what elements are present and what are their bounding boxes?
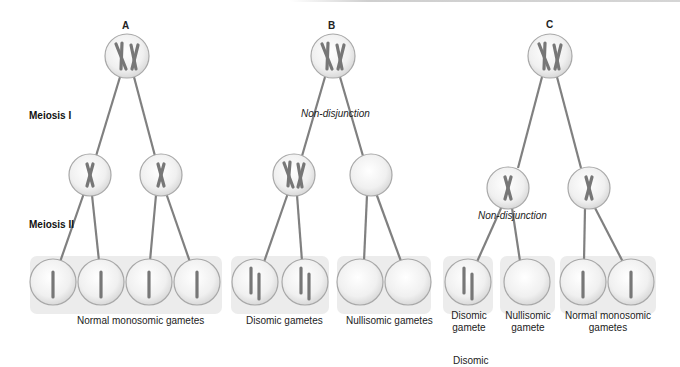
gamete-b-nullisomic-2 [385, 259, 431, 305]
caption-b-nullisomic: Nullisomic gametes [346, 315, 433, 326]
line-c-6 [594, 206, 624, 264]
gamete-c-disomic [445, 259, 491, 305]
gamete-b-disomic-1 [232, 259, 278, 305]
cell-b-m1-left [273, 154, 315, 196]
cell-b-m1-right [350, 154, 392, 196]
stage-label-meiosis-1: Meiosis I [29, 110, 71, 121]
line-c-5 [584, 208, 585, 261]
panel-label-b: B [328, 20, 335, 31]
gamete-b-nullisomic-1 [337, 259, 383, 305]
line-a-5 [150, 195, 156, 261]
line-b-4 [297, 195, 302, 261]
line-a-1 [96, 77, 120, 156]
caption-c-disomic: Disomic gamete [444, 310, 494, 334]
footer-label-disomic: Disomic [453, 355, 489, 366]
line-c-1 [518, 77, 542, 168]
caption-c-normal-monosomic: Normal monosomic gametes [558, 310, 658, 334]
caption-a-normal-monosomic: Normal monosomic gametes [77, 315, 204, 326]
line-b-5 [364, 195, 367, 261]
cell-c-parent [528, 34, 572, 78]
line-a-2 [134, 77, 155, 156]
annotation-non-disjunction-b: Non-disjunction [301, 108, 370, 119]
line-b-6 [376, 193, 402, 264]
cell-b-parent [311, 34, 355, 78]
stage-label-meiosis-2: Meiosis II [29, 219, 74, 230]
caption-c-nullisomic: Nullisomic gamete [500, 310, 556, 334]
line-c-2 [557, 77, 581, 168]
cell-a-parent [105, 34, 149, 78]
caption-b-disomic: Disomic gametes [246, 315, 323, 326]
line-a-6 [166, 193, 190, 262]
line-b-3 [264, 193, 288, 262]
gamete-c-nullisomic [504, 259, 550, 305]
panel-label-c: C [546, 19, 553, 30]
line-a-4 [92, 195, 99, 261]
panel-label-a: A [122, 20, 129, 31]
gamete-b-disomic-2 [282, 259, 328, 305]
annotation-non-disjunction-c: Non-disjunction [478, 210, 547, 221]
